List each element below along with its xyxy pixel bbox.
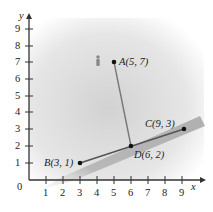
x-tick-label: 9	[179, 188, 184, 199]
x-tick-label: 2	[60, 188, 65, 199]
y-tick-label: 1	[15, 158, 20, 169]
x-tick-label: 5	[111, 188, 116, 199]
origin-label: 0	[17, 182, 22, 193]
y-tick-label: 7	[15, 57, 20, 68]
x-axis-label: x	[191, 182, 196, 193]
y-tick-label: 6	[15, 74, 20, 85]
x-tick-label: 1	[43, 188, 48, 199]
point-b	[78, 161, 83, 166]
x-tick-label: 6	[128, 188, 133, 199]
point-a	[112, 60, 117, 65]
x-tick-label: 4	[94, 188, 99, 199]
y-tick-label: 4	[15, 107, 20, 118]
x-tick-label: 7	[145, 188, 150, 199]
point-d-label: D(6, 2)	[134, 150, 164, 161]
y-tick-label: 2	[15, 141, 20, 152]
y-tick-label: 5	[15, 91, 20, 102]
point-c	[182, 127, 187, 132]
coordinate-figure: y x 0 1 2 3 4 5 6 7 8 9 1 2 3 4 5 6 7 8 …	[0, 0, 213, 212]
y-axis-arrow-icon	[26, 13, 32, 19]
point-b-label: B(3, 1)	[44, 158, 73, 169]
plot-svg	[0, 0, 213, 212]
y-tick-label: 8	[15, 41, 20, 52]
point-a-label: A(5, 7)	[119, 57, 148, 68]
y-axis-label: y	[19, 11, 24, 22]
y-tick-label: 3	[15, 124, 20, 135]
point-d	[129, 144, 134, 149]
person-icon	[96, 55, 100, 66]
x-tick-label: 8	[162, 188, 167, 199]
y-tick-label: 9	[15, 24, 20, 35]
x-tick-label: 3	[77, 188, 82, 199]
point-c-label: C(9, 3)	[145, 119, 175, 130]
